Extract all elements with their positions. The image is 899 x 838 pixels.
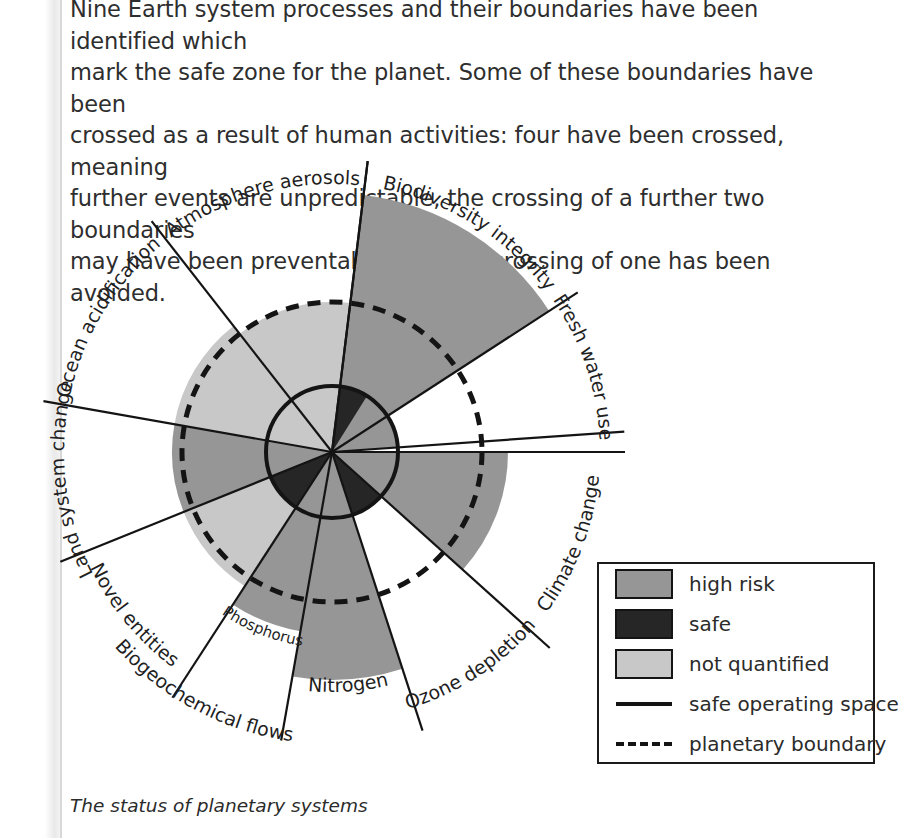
legend-solid-line-icon: [615, 689, 673, 719]
figure-caption: The status of planetary systems: [70, 795, 368, 816]
legend-item-safe-operating-space: safe operating space: [599, 684, 873, 724]
legend-item-safe: safe: [599, 604, 873, 644]
sector-label-ozone-depletion: Ozone depletion: [402, 614, 539, 713]
legend-item-high-risk: high risk: [599, 564, 873, 604]
legend-label-not-quantified: not quantified: [689, 652, 829, 676]
legend-label-planetary-boundary: planetary boundary: [689, 732, 886, 756]
legend-label-safe-operating-space: safe operating space: [689, 692, 899, 716]
legend-dashed-line-icon: [615, 729, 673, 759]
legend-swatch-safe: [615, 609, 673, 639]
sector-wedge-biodiversity-integrity: [332, 195, 549, 452]
sector-label-ocean-acidification: Ocean acidification: [52, 232, 164, 400]
legend-swatch-high-risk: [615, 569, 673, 599]
body-line-1: Nine Earth system processes and their bo…: [70, 0, 870, 57]
body-line-2: mark the safe zone for the planet. Some …: [70, 57, 870, 120]
legend-box: high risk safe not quantified safe opera…: [597, 562, 875, 764]
legend-item-not-quantified: not quantified: [599, 644, 873, 684]
legend-item-planetary-boundary: planetary boundary: [599, 724, 873, 764]
legend-label-safe: safe: [689, 612, 731, 636]
sector-label-atmosphere-aerosols: Atmosphere aerosols: [160, 166, 361, 241]
sector-label-fresh-water-use: Fresh water use: [549, 290, 617, 441]
sector-label-climate-change: Climate change: [532, 474, 603, 616]
legend-label-high-risk: high risk: [689, 572, 775, 596]
legend-swatch-not-quantified: [615, 649, 673, 679]
